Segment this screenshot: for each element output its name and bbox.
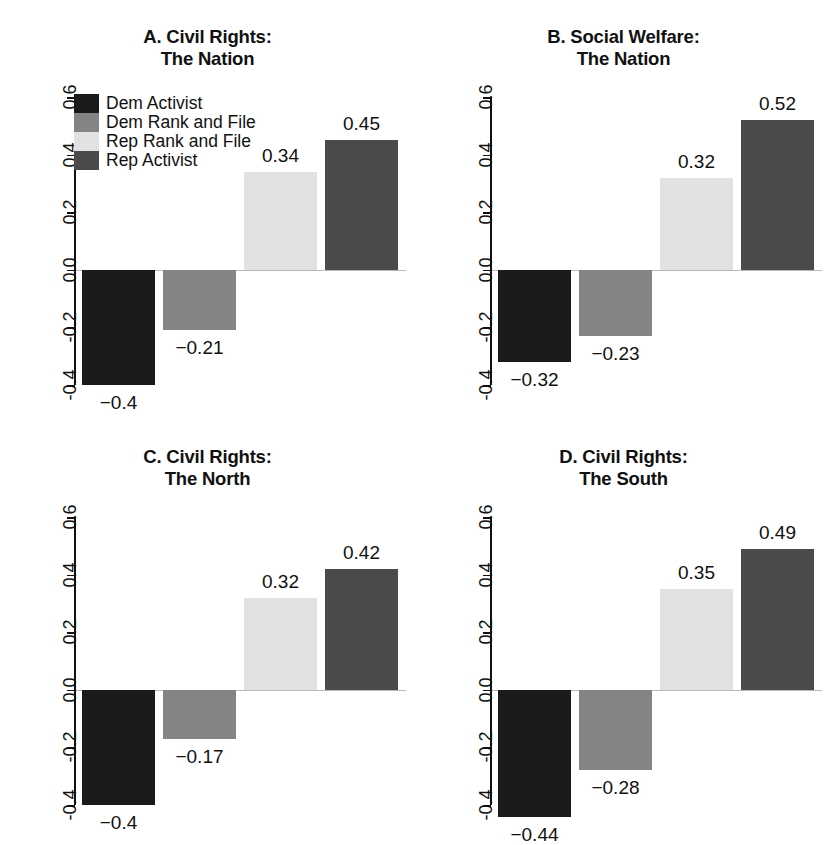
y-axis: 0.60.40.20.0-0.2-0.4 <box>478 97 492 385</box>
bar-value-label: −0.17 <box>145 747 255 766</box>
bar <box>163 690 236 739</box>
legend-item: Dem Rank and File <box>74 113 274 132</box>
panel-title-line-2: The Nation <box>0 48 415 70</box>
chart-panel-c: C. Civil Rights:The North0.60.40.20.0-0.… <box>0 420 415 839</box>
legend-item-label: Rep Rank and File <box>106 132 251 151</box>
legend-swatch-icon <box>74 151 99 170</box>
y-axis: 0.60.40.20.0-0.2-0.4 <box>62 517 76 805</box>
bar <box>325 140 398 270</box>
bar-value-label: −0.21 <box>145 338 255 357</box>
bar <box>498 690 571 817</box>
bar-value-label: 0.42 <box>307 543 417 562</box>
bar <box>579 270 652 336</box>
legend-swatch-icon <box>74 132 99 151</box>
chart-panel-b: B. Social Welfare:The Nation0.60.40.20.0… <box>416 0 831 419</box>
panel-title: C. Civil Rights:The North <box>0 446 415 490</box>
legend-swatch-icon <box>74 113 99 132</box>
bar-value-label: 0.45 <box>307 114 417 133</box>
bar <box>163 270 236 330</box>
panel-title-line-2: The North <box>0 468 415 490</box>
panel-title: A. Civil Rights:The Nation <box>0 26 415 70</box>
chart-panel-d: D. Civil Rights:The South0.60.40.20.0-0.… <box>416 420 831 839</box>
bar-value-label: −0.44 <box>480 825 590 844</box>
panel-title: B. Social Welfare:The Nation <box>416 26 831 70</box>
bar-value-label: 0.35 <box>642 563 752 582</box>
panel-title-line-1: B. Social Welfare: <box>416 26 831 48</box>
legend-item-label: Dem Rank and File <box>106 113 256 132</box>
chart-panel-a: A. Civil Rights:The Nation0.60.40.20.0-0… <box>0 0 415 419</box>
bar-value-label: −0.32 <box>480 370 590 389</box>
bar-value-label: −0.28 <box>561 778 671 797</box>
y-axis: 0.60.40.20.0-0.2-0.4 <box>478 517 492 805</box>
bar-value-label: 0.32 <box>642 152 752 171</box>
bar <box>660 178 733 270</box>
legend: Dem ActivistDem Rank and FileRep Rank an… <box>74 94 274 170</box>
legend-item-label: Dem Activist <box>106 94 202 113</box>
bar <box>741 549 814 690</box>
bar <box>579 690 652 771</box>
legend-item-label: Rep Activist <box>106 151 197 170</box>
bar-value-label: 0.49 <box>723 523 831 542</box>
bar-value-label: −0.4 <box>64 813 174 832</box>
bar-value-label: 0.32 <box>226 572 336 591</box>
bar <box>244 172 317 270</box>
bar <box>82 270 155 385</box>
panel-title-line-1: A. Civil Rights: <box>0 26 415 48</box>
legend-swatch-icon <box>74 94 99 113</box>
plot-area: −0.32−0.230.320.52 <box>492 97 822 385</box>
plot-area: −0.44−0.280.350.49 <box>492 517 822 805</box>
legend-item: Rep Rank and File <box>74 132 274 151</box>
legend-item: Rep Activist <box>74 151 274 170</box>
panel-title-line-1: C. Civil Rights: <box>0 446 415 468</box>
panel-title-line-2: The South <box>416 468 831 490</box>
bar-value-label: −0.23 <box>561 344 671 363</box>
bar <box>741 120 814 270</box>
bar-value-label: 0.52 <box>723 94 831 113</box>
panel-title-line-2: The Nation <box>416 48 831 70</box>
panel-title: D. Civil Rights:The South <box>416 446 831 490</box>
bar-value-label: −0.4 <box>64 393 174 412</box>
legend-item: Dem Activist <box>74 94 274 113</box>
bar <box>244 598 317 690</box>
plot-area: −0.4−0.170.320.42 <box>76 517 406 805</box>
bar <box>325 569 398 690</box>
bar <box>660 589 733 690</box>
panel-title-line-1: D. Civil Rights: <box>416 446 831 468</box>
